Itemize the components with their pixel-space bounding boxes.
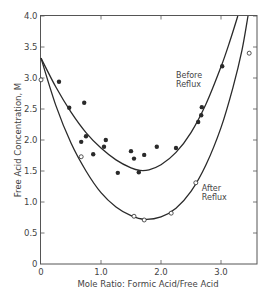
before-reflux-point — [220, 64, 224, 68]
after-reflux-point — [39, 78, 43, 82]
before-reflux-point — [132, 156, 136, 160]
x-axis-label: Mole Ratio: Formic Acid/Free Acid — [77, 279, 218, 289]
before-reflux-point — [174, 146, 178, 150]
before-reflux-point — [91, 152, 95, 156]
before-reflux-label: Reflux — [176, 80, 201, 89]
y-axis-label: Free Acid Concentration, M — [13, 83, 23, 197]
before-reflux-point — [116, 171, 120, 175]
after-reflux-point — [247, 51, 251, 55]
before-reflux-point — [199, 113, 203, 117]
y-tick-label: 1.5 — [24, 166, 38, 176]
after-reflux-point — [79, 155, 83, 159]
y-tick-label: 0.5 — [24, 228, 38, 238]
y-tick-label: 0 — [32, 259, 37, 269]
before-reflux-point — [196, 120, 200, 124]
curve-labels: BeforeRefluxAfterReflux — [176, 71, 227, 202]
before-reflux-point — [137, 170, 141, 174]
before-reflux-point — [79, 140, 83, 144]
before-reflux-point — [104, 138, 108, 142]
x-tick-label: 2.0 — [154, 267, 168, 277]
after-reflux-label: After — [202, 184, 222, 193]
before-reflux-curve — [41, 16, 238, 171]
x-tick-label: 1.0 — [94, 267, 108, 277]
before-reflux-point — [57, 80, 61, 84]
before-reflux-point — [84, 134, 88, 138]
after-reflux-point — [132, 214, 136, 218]
before-reflux-point — [155, 145, 159, 149]
after-reflux-point — [169, 211, 173, 215]
x-tick-label: 3.0 — [214, 267, 228, 277]
y-tick-label: 3.5 — [24, 42, 38, 52]
y-tick-label: 3.0 — [24, 73, 38, 83]
after-reflux-label: Reflux — [202, 193, 227, 202]
chart-container: 00.51.01.52.02.53.03.54.001.02.03.0 Befo… — [0, 0, 269, 298]
plot-border — [41, 16, 258, 265]
before-reflux-point — [200, 105, 204, 109]
before-reflux-point — [129, 149, 133, 153]
y-tick-label: 1.0 — [24, 197, 38, 207]
after-reflux-point — [142, 218, 146, 222]
before-reflux-point — [67, 106, 71, 110]
after-reflux-point — [194, 181, 198, 185]
before-reflux-point — [142, 153, 146, 157]
before-reflux-point — [82, 101, 86, 105]
y-tick-label: 2.5 — [24, 104, 38, 114]
plot-frame — [41, 16, 258, 265]
x-tick-label: 0 — [38, 267, 43, 277]
scatter-plot: 00.51.01.52.02.53.03.54.001.02.03.0 Befo… — [0, 0, 269, 298]
before-reflux-point — [102, 145, 106, 149]
before-reflux-label: Before — [176, 71, 202, 80]
axis-ticks: 00.51.01.52.02.53.03.54.001.02.03.0 — [24, 11, 257, 277]
y-tick-label: 4.0 — [24, 11, 38, 21]
y-tick-label: 2.0 — [24, 135, 38, 145]
